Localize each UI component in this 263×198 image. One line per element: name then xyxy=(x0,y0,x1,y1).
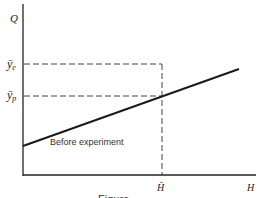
figure-caption: Figure xyxy=(98,193,129,198)
before-experiment-label: Before experiment xyxy=(50,137,124,147)
hbar-label: H̄ xyxy=(156,182,165,193)
chart: Q H ȳe ȳp H̄ Before experiment Figure xyxy=(0,0,263,198)
yp-label: ȳp xyxy=(6,88,16,103)
chart-plot: Q H ȳe ȳp H̄ Before experiment Figure xyxy=(0,0,263,198)
before-experiment-line xyxy=(23,69,239,146)
y-axis-label: Q xyxy=(10,12,18,24)
x-axis-label: H xyxy=(246,182,255,193)
ye-label: ȳe xyxy=(6,57,16,72)
